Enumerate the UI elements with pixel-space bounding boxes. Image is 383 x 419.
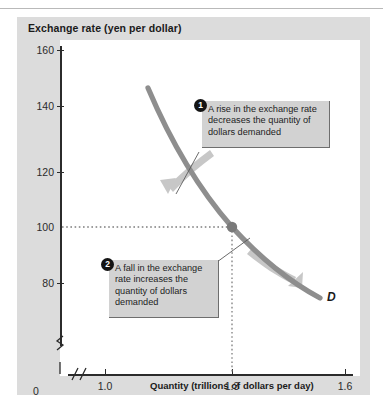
callout-2-badge: 2 xyxy=(101,258,114,271)
callout-2-leader-line xyxy=(217,238,250,262)
callout-2-box: A fall in the exchange rate increases th… xyxy=(109,260,219,318)
callout-1-number: 1 xyxy=(198,100,203,110)
arrow-up-left-along-curve xyxy=(160,150,214,194)
callout-1-box: A rise in the exchange rate decreases th… xyxy=(202,101,330,148)
callout-2-text: A fall in the exchange rate increases th… xyxy=(115,263,202,307)
figure-container: Exchange rate (yen per dollar) 160 140 1… xyxy=(0,0,383,419)
axis-break-x xyxy=(60,362,86,380)
callout-1-text: A rise in the exchange rate decreases th… xyxy=(208,104,317,137)
callout-2-number: 2 xyxy=(105,259,110,269)
axis-break-y xyxy=(57,336,63,350)
callout-1-badge: 1 xyxy=(194,99,207,112)
equilibrium-point-marker xyxy=(227,222,237,232)
demand-curve-label: D xyxy=(327,290,336,304)
chart-drawing-layer xyxy=(0,0,383,419)
callout-1-leader-line xyxy=(176,152,199,194)
